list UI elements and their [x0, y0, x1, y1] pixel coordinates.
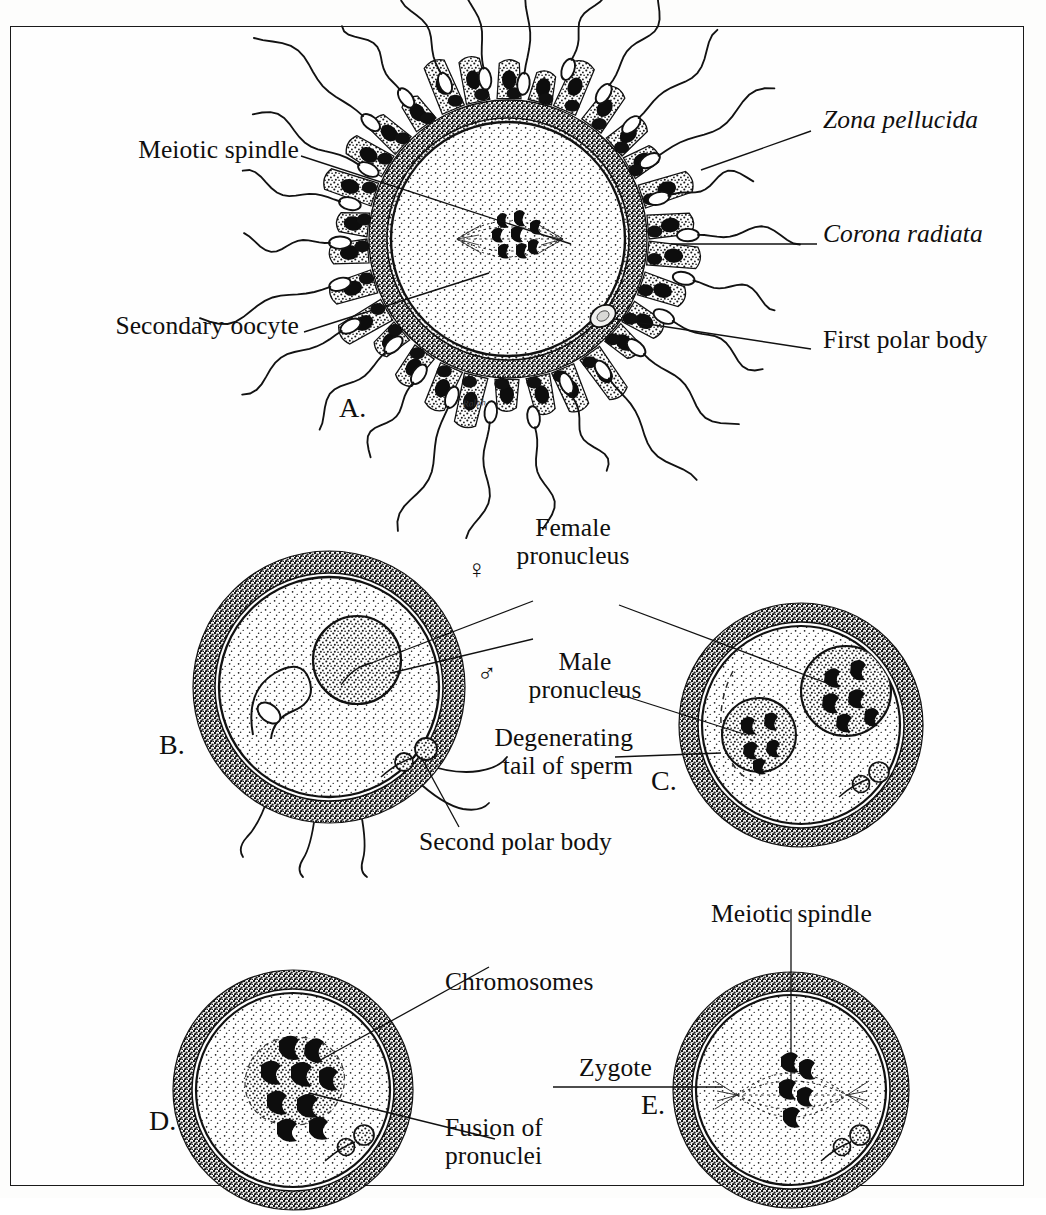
label-chromosomes: Chromosomes — [445, 967, 593, 996]
label-corona-radiata: Corona radiata — [823, 219, 983, 248]
panel-a-illustration — [11, 27, 1025, 497]
female-symbol-icon: ♀ — [467, 555, 487, 585]
label-fusion-line1: Fusion of — [445, 1113, 543, 1142]
label-degenerating-line1: Degenerating — [397, 723, 633, 752]
panel-letter-b: B. — [159, 729, 185, 761]
label-male-pronucleus-line2: pronucleus — [497, 675, 673, 704]
panel-letter-c: C. — [651, 765, 677, 797]
label-fusion-line2: pronuclei — [445, 1141, 542, 1170]
panel-letter-d: D. — [149, 1105, 176, 1137]
label-secondary-oocyte: Secondary oocyte — [21, 311, 299, 340]
panel-d-illustration — [133, 945, 463, 1215]
male-symbol-icon: ♂ — [477, 659, 497, 689]
label-female-pronucleus-line1: Female — [473, 513, 673, 542]
panel-e-illustration — [631, 945, 961, 1215]
label-female-pronucleus-line2: pronucleus — [473, 541, 673, 570]
label-meiotic-spindle-a: Meiotic spindle — [21, 135, 299, 164]
label-male-pronucleus-line1: Male — [497, 647, 673, 676]
panel-c-illustration — [641, 575, 971, 875]
artist-signature: Ralph — [463, 397, 487, 409]
panel-letter-a: A. — [339, 392, 366, 424]
leader-zona-pellucida — [701, 131, 811, 170]
label-meiotic-spindle-e: Meiotic spindle — [711, 899, 872, 928]
panel-letter-e: E. — [641, 1089, 665, 1121]
female-pronucleus-b — [313, 616, 401, 704]
figure-border: Meiotic spindle Secondary oocyte Zona pe… — [10, 26, 1024, 1186]
label-degenerating-line2: tail of sperm — [397, 751, 633, 780]
label-second-polar-body: Second polar body — [419, 827, 612, 856]
label-zona-pellucida: Zona pellucida — [823, 105, 978, 134]
label-first-polar-body: First polar body — [823, 325, 988, 354]
label-zygote: Zygote — [579, 1053, 652, 1082]
